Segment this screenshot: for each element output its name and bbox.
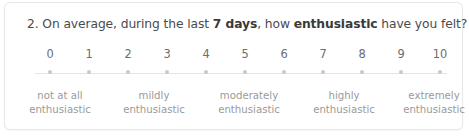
scale-number-7[interactable]: 7 [308,47,338,62]
scale-number-10[interactable]: 10 [425,47,455,62]
scale-option-dot-8[interactable] [360,70,364,74]
scale-number-4[interactable]: 4 [191,47,221,62]
anchor-label-line1: extremely [379,89,469,103]
scale-option-dot-5[interactable] [243,70,247,74]
scale-number-2[interactable]: 2 [113,47,143,62]
question-segment: have you felt? [377,17,467,31]
anchor-label-2: mildlyenthusiastic [99,89,209,116]
question-emphasis: 7 days [213,17,257,31]
question-emphasis: enthusiastic [294,17,378,31]
scale-option-dot-9[interactable] [399,70,403,74]
scale-option-dot-6[interactable] [282,70,286,74]
scale-option-dot-1[interactable] [87,70,91,74]
scale-option-dot-7[interactable] [321,70,325,74]
scale-number-0[interactable]: 0 [35,47,65,62]
scale-option-dot-4[interactable] [204,70,208,74]
scale-number-5[interactable]: 5 [230,47,260,62]
scale-number-6[interactable]: 6 [269,47,299,62]
rating-scale[interactable]: 012345678910 [5,47,469,81]
scale-option-dot-3[interactable] [165,70,169,74]
question-segment: , how [257,17,294,31]
scale-number-9[interactable]: 9 [386,47,416,62]
scale-dot-row[interactable] [5,70,469,78]
scale-option-dot-10[interactable] [438,70,442,74]
survey-question-card: 2. On average, during the last 7 days, h… [4,2,463,130]
scale-anchor-labels: not at allenthusiasticmildlyenthusiastic… [5,89,469,123]
scale-number-8[interactable]: 8 [347,47,377,62]
scale-option-dot-0[interactable] [48,70,52,74]
anchor-label-line2: enthusiastic [99,103,209,117]
anchor-label-5: extremelyenthusiastic [379,89,469,116]
question-segment: 2. On average, during the last [27,17,213,31]
anchor-label-line2: enthusiastic [379,103,469,117]
scale-number-1[interactable]: 1 [74,47,104,62]
scale-number-3[interactable]: 3 [152,47,182,62]
anchor-label-line1: moderately [194,89,304,103]
scale-number-row: 012345678910 [5,47,469,63]
anchor-label-3: moderatelyenthusiastic [194,89,304,116]
scale-option-dot-2[interactable] [126,70,130,74]
anchor-label-line2: enthusiastic [194,103,304,117]
question-text: 2. On average, during the last 7 days, h… [27,17,447,32]
anchor-label-line1: mildly [99,89,209,103]
